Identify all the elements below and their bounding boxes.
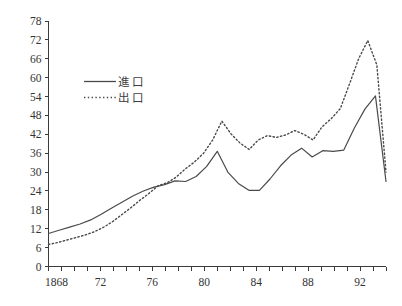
y-tick-label: 42 — [30, 128, 42, 140]
legend-label-exports: 出 口 — [118, 91, 143, 104]
x-tick-label: 80 — [199, 276, 211, 288]
legend-label-imports: 進 口 — [118, 76, 143, 88]
x-tick-label: 1868 — [45, 276, 68, 288]
y-tick-label: 24 — [30, 185, 42, 197]
line-chart: 06121824303642485460667278 1868727680848… — [0, 0, 402, 306]
y-tick-label: 12 — [30, 223, 42, 235]
y-tick-label: 6 — [36, 242, 42, 254]
x-tick-label: 72 — [95, 276, 107, 288]
x-tick-label: 84 — [250, 276, 262, 288]
y-tick-label: 60 — [30, 72, 42, 84]
x-tick-label: 92 — [354, 276, 366, 288]
y-tick-label: 48 — [30, 109, 42, 121]
y-tick-label: 78 — [30, 15, 42, 27]
y-tick-label: 66 — [30, 53, 42, 65]
y-tick-label: 54 — [30, 91, 42, 103]
chart-container: 06121824303642485460667278 1868727680848… — [0, 0, 402, 306]
x-tick-label: 88 — [302, 276, 314, 288]
y-tick-label: 18 — [30, 204, 42, 216]
y-tick-label: 72 — [30, 34, 42, 46]
x-tick-label: 76 — [147, 276, 159, 288]
y-tick-label: 30 — [30, 166, 42, 178]
chart-background — [0, 0, 402, 306]
y-tick-label: 0 — [36, 261, 42, 273]
y-tick-label: 36 — [30, 147, 42, 159]
